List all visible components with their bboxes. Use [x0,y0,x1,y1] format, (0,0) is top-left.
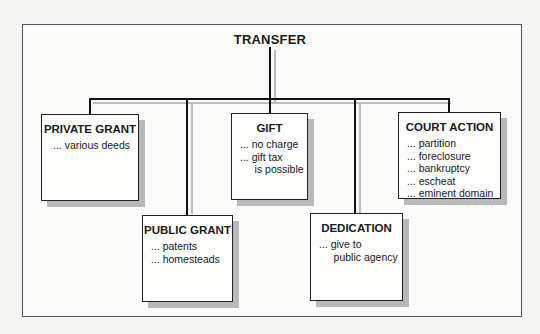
node-item: ... gift tax [240,151,307,164]
connector-gift [269,98,271,114]
connector-shadow [274,50,276,102]
node-item: ... bankruptcy [407,162,500,175]
node-item: ... no charge [240,138,307,151]
node-item: ... various deeds [50,139,138,152]
node-dedication: DEDICATION ... give to public agency [310,213,403,301]
node-public-grant: PUBLIC GRANT ... patents ... homesteads [142,215,233,302]
node-item: ... homesteads [151,253,232,266]
connector-shadow [191,102,193,214]
node-item: ... give to [319,238,402,251]
diagram-title: TRANSFER [0,32,540,47]
connector-shadow [93,102,451,104]
connector-public-grant [186,98,188,216]
node-item: is possible [240,163,307,176]
node-private-grant: PRIVATE GRANT ... various deeds [41,114,139,201]
node-item: public agency [319,251,402,264]
connector-shadow [359,102,361,213]
node-item: ... escheat [407,175,500,188]
node-item: ... eminent domain [407,187,500,200]
node-label: DEDICATION [311,222,402,234]
node-label: COURT ACTION [399,121,500,133]
node-item: ... partition [407,137,500,150]
node-item: ... foreclosure [407,150,500,163]
node-item: ... patents [151,240,232,253]
connector-private-grant [89,98,91,115]
connector-court-action [448,98,450,113]
node-label: GIFT [232,122,307,134]
node-court-action: COURT ACTION ... partition ... foreclosu… [398,112,501,199]
connector-dedication [354,98,356,214]
connector-stem [269,47,271,99]
node-label: PUBLIC GRANT [143,224,232,236]
node-label: PRIVATE GRANT [42,123,138,135]
node-gift: GIFT ... no charge ... gift tax is possi… [231,113,308,200]
